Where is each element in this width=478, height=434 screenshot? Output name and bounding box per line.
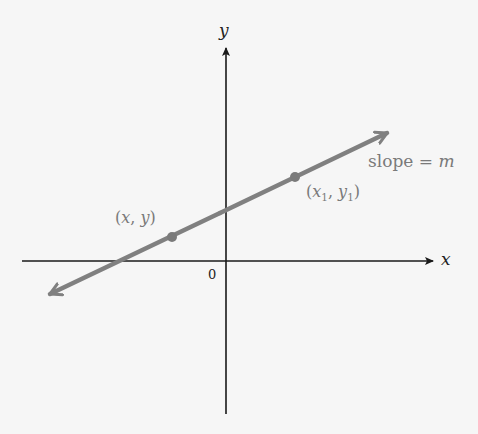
var-x1: x <box>312 182 321 201</box>
slope-text: slope = <box>368 151 438 171</box>
paren-close: ) <box>354 182 360 201</box>
subscript-y: 1 <box>347 191 354 203</box>
paren-close: ) <box>150 208 156 227</box>
point-x1-y1 <box>290 172 300 182</box>
x-axis-label: x <box>441 249 451 269</box>
separator: , <box>328 182 338 201</box>
point-label-x-y: (x, y) <box>115 208 156 227</box>
var-y: y <box>140 208 149 227</box>
separator: , <box>130 208 140 227</box>
diagram-canvas <box>0 0 478 434</box>
subscript-x: 1 <box>321 191 328 203</box>
slope-label: slope = m <box>368 151 455 171</box>
point-label-x1-y1: (x1, y1) <box>306 182 360 203</box>
sloped-line <box>220 133 387 213</box>
y-axis-label: y <box>219 20 229 40</box>
slope-symbol: m <box>438 151 454 171</box>
var-y1: y <box>338 182 347 201</box>
point-x-y <box>167 232 177 242</box>
var-x: x <box>121 208 130 227</box>
origin-label: 0 <box>208 267 216 282</box>
